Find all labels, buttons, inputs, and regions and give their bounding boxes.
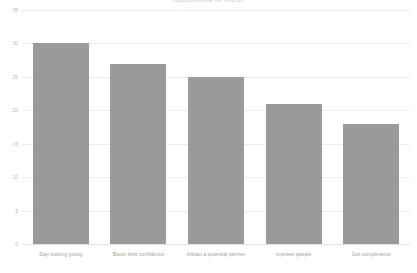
bar-chart: (according to men) 05101520253035 Stay l… <box>0 0 417 273</box>
gridline: 0 <box>22 244 410 245</box>
x-axis-category-label: Boost their confidence <box>100 250 178 258</box>
bar-slot <box>177 10 255 244</box>
y-axis-tick-label: 25 <box>12 74 18 80</box>
y-axis-tick-label: 10 <box>12 174 18 180</box>
bar-slot <box>22 10 100 244</box>
x-axis-category-label: Impress people <box>255 250 333 258</box>
x-axis-category-label: Stay looking young <box>22 250 100 258</box>
bar[interactable] <box>110 64 166 245</box>
x-axis-category-label: Attract a potential partner <box>177 250 255 258</box>
chart-title: (according to men) <box>0 0 417 2</box>
x-axis-labels: Stay looking youngBoost their confidence… <box>22 250 410 266</box>
y-axis-tick-label: 5 <box>15 208 18 214</box>
plot-area: 05101520253035 <box>22 10 410 244</box>
bar-slot <box>100 10 178 244</box>
y-axis-tick-label: 0 <box>15 241 18 247</box>
y-axis-tick-label: 35 <box>12 7 18 13</box>
bar[interactable] <box>343 124 399 244</box>
y-axis-tick-label: 30 <box>12 40 18 46</box>
bar[interactable] <box>33 43 89 244</box>
bar-slot <box>255 10 333 244</box>
bars-group <box>22 10 410 244</box>
bar[interactable] <box>266 104 322 244</box>
y-axis-tick-label: 15 <box>12 141 18 147</box>
bar-slot <box>332 10 410 244</box>
x-axis-category-label: Get compliments <box>332 250 410 258</box>
bar[interactable] <box>188 77 244 244</box>
y-axis-tick-label: 20 <box>12 107 18 113</box>
